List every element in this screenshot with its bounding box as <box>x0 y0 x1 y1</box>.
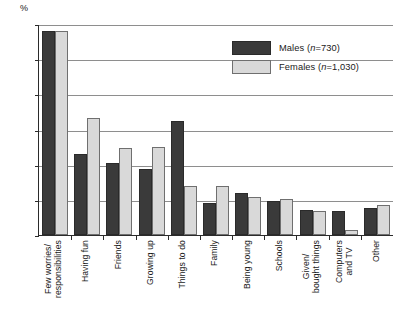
legend-label-females: Females (n=1,030) <box>279 62 359 72</box>
y-tick-mark-10 <box>35 166 39 167</box>
bar-females <box>248 197 261 235</box>
x-axis-label-text: Being young <box>243 240 253 289</box>
y-tick-mark-5 <box>35 201 39 202</box>
bar-females <box>313 211 326 235</box>
bar-females <box>184 186 197 235</box>
bar-females <box>55 31 68 235</box>
bar-group <box>168 25 200 235</box>
x-axis-label-text: Schools <box>275 240 285 271</box>
bar-males <box>42 31 55 235</box>
bar-group <box>136 25 168 235</box>
x-axis-label: Growing up <box>135 240 167 316</box>
x-axis-label: Computersand TV <box>328 240 360 316</box>
bar-males <box>203 203 216 235</box>
legend-label-males: Males (n=730) <box>279 43 340 53</box>
bar-females <box>152 147 165 235</box>
x-axis-label: Having fun <box>70 240 102 316</box>
bar-group <box>200 25 232 235</box>
legend: Males (n=730) Females (n=1,030) <box>232 40 359 78</box>
x-axis-label-text: Things to do <box>178 240 188 289</box>
x-axis-label: Given/bought things <box>296 240 328 316</box>
bar-group <box>71 25 103 235</box>
x-axis-label-text: Growing up <box>146 240 156 285</box>
bar-group <box>39 25 71 235</box>
x-axis-label-text: Few worries/responsibilities <box>45 240 64 298</box>
legend-swatch-males-icon <box>232 41 271 55</box>
x-axis-label: Family <box>199 240 231 316</box>
x-axis-label: Schools <box>264 240 296 316</box>
y-tick-mark-15 <box>35 131 39 132</box>
bar-females <box>280 199 293 235</box>
bar-females <box>119 148 132 235</box>
legend-item-females: Females (n=1,030) <box>232 59 359 74</box>
x-axis-label: Friends <box>103 240 135 316</box>
bar-males <box>267 201 280 235</box>
y-tick-mark-30 <box>35 25 39 26</box>
x-axis-label-text: Having fun <box>82 240 92 282</box>
x-axis-labels: Few worries/responsibilitiesHaving funFr… <box>38 240 393 316</box>
x-axis-label-text: Given/bought things <box>303 240 322 293</box>
legend-swatch-females-icon <box>232 60 271 74</box>
x-axis-label: Other <box>361 240 393 316</box>
bar-females <box>87 118 100 235</box>
x-axis-label-text: Computersand TV <box>335 240 354 283</box>
bar-males <box>139 169 152 235</box>
y-tick-mark-20 <box>35 95 39 96</box>
y-tick-mark-25 <box>35 60 39 61</box>
x-axis-label-text: Friends <box>114 240 124 269</box>
x-axis-label-text: Family <box>211 240 221 266</box>
legend-item-males: Males (n=730) <box>232 40 359 55</box>
bar-males <box>300 210 313 235</box>
bar-males <box>332 211 345 235</box>
bar-males <box>235 193 248 235</box>
bar-group <box>103 25 135 235</box>
bar-females <box>216 186 229 235</box>
bar-males <box>106 163 119 235</box>
y-axis-label: % <box>20 3 28 13</box>
bar-females <box>377 205 390 235</box>
bar-males <box>74 154 87 235</box>
bar-females <box>345 230 358 235</box>
bar-group <box>361 25 393 235</box>
bar-males <box>171 121 184 235</box>
y-tick-mark-0 <box>35 236 39 237</box>
x-axis-label: Few worries/responsibilities <box>38 240 70 316</box>
bar-males <box>364 208 377 235</box>
x-axis-label: Being young <box>232 240 264 316</box>
x-axis-label: Things to do <box>167 240 199 316</box>
x-axis-label-text: Other <box>372 240 382 262</box>
bar-chart: % 302520151050 Few worries/responsibilit… <box>0 0 410 316</box>
